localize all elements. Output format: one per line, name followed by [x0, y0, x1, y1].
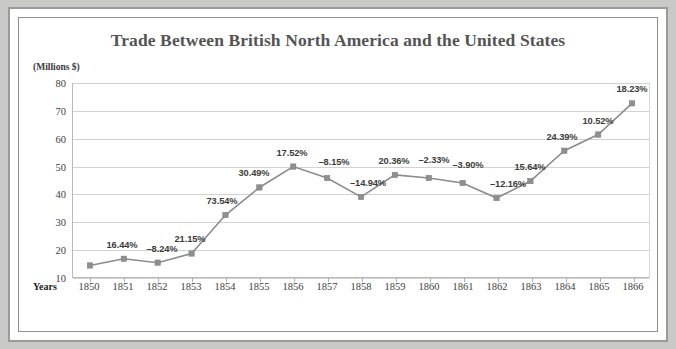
x-axis-tick-label: 1858: [351, 281, 372, 292]
data-point-label: –3.90%: [453, 160, 484, 170]
figure-inner-border: Trade Between British North America and …: [18, 17, 658, 332]
y-axis-tick-label: 70: [56, 105, 67, 116]
y-axis-tick-label: 60: [56, 133, 67, 144]
data-point-label: 20.36%: [379, 156, 410, 166]
data-point-marker: [494, 195, 499, 200]
data-point-marker: [257, 185, 262, 190]
data-point-marker: [189, 251, 194, 256]
data-point-label: 21.15%: [175, 234, 206, 244]
data-point-marker: [155, 260, 160, 265]
x-axis-tick-label: 1862: [487, 281, 508, 292]
x-axis-tick-label: 1861: [453, 281, 474, 292]
data-point-label: 24.39%: [547, 132, 578, 142]
y-axis-tick-label: 80: [56, 78, 67, 89]
data-point-marker: [324, 175, 329, 180]
data-point-label: 16.44%: [107, 240, 138, 250]
data-point-marker: [629, 101, 634, 106]
plot-area: 8070605040302010 16.44%–8.24%21.15%73.54…: [72, 83, 650, 278]
x-axis-tick-label: 1856: [283, 281, 304, 292]
y-axis-tick-label: 50: [56, 161, 67, 172]
data-point-label: –12.16%: [490, 179, 526, 189]
x-axis-tick-label: 1864: [555, 281, 576, 292]
data-point-marker: [223, 212, 228, 217]
data-point-marker: [121, 256, 126, 261]
y-axis-tick-label: 20: [56, 245, 67, 256]
x-axis-tick-label: 1863: [521, 281, 542, 292]
data-point-label: –8.24%: [147, 244, 178, 254]
gridline: 10: [73, 278, 649, 279]
data-point-marker: [358, 194, 363, 199]
data-point-marker: [87, 263, 92, 268]
data-point-label: 17.52%: [277, 148, 308, 158]
data-point-label: 18.23%: [617, 84, 648, 94]
data-point-marker: [460, 180, 465, 185]
data-point-marker: [291, 164, 296, 169]
data-point-label: 30.49%: [239, 168, 270, 178]
y-axis-tick-label: 30: [56, 217, 67, 228]
x-axis-tick-label: 1866: [623, 281, 644, 292]
x-axis-title: Years: [33, 281, 57, 292]
x-axis-tick-label: 1865: [589, 281, 610, 292]
data-point-marker: [426, 175, 431, 180]
x-axis-row: Years 1850185118521853185418551856185718…: [19, 281, 657, 297]
x-axis-tick-label: 1850: [79, 281, 100, 292]
x-axis-tick-label: 1860: [419, 281, 440, 292]
x-axis-tick-label: 1859: [385, 281, 406, 292]
x-axis-tick-label: 1853: [181, 281, 202, 292]
data-point-label: –8.15%: [319, 157, 350, 167]
figure-frame: Trade Between British North America and …: [8, 7, 668, 342]
y-axis-tick-label: 40: [56, 189, 67, 200]
data-point-marker: [392, 172, 397, 177]
x-axis-tick-label: 1852: [147, 281, 168, 292]
x-axis-tick-label: 1851: [113, 281, 134, 292]
data-point-label: –14.94%: [350, 178, 386, 188]
data-point-marker: [595, 132, 600, 137]
data-point-marker: [562, 148, 567, 153]
y-axis-unit-label: (Millions $): [33, 62, 80, 72]
x-axis-tick-label: 1854: [215, 281, 236, 292]
chart-title: Trade Between British North America and …: [19, 30, 657, 51]
x-axis-tick-label: 1855: [249, 281, 270, 292]
data-point-marker: [528, 178, 533, 183]
x-axis-tick-label: 1857: [317, 281, 338, 292]
data-point-label: 10.52%: [583, 116, 614, 126]
data-point-label: 73.54%: [207, 196, 238, 206]
data-point-label: 15.64%: [515, 162, 546, 172]
data-point-label: –2.33%: [419, 155, 450, 165]
